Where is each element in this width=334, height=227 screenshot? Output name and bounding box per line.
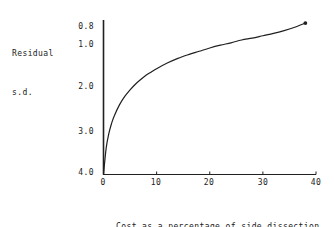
data-line-residual-sd bbox=[104, 23, 306, 174]
chart-figure: Residual s.d. 0.8 1.0 2.0 3.0 4.0 0 10 2… bbox=[0, 0, 334, 227]
data-endpoint-marker bbox=[303, 21, 307, 25]
x-axis-title-line-1: Cost as a percentage of side dissection bbox=[116, 220, 319, 227]
plot-area bbox=[0, 0, 334, 227]
x-axis-title: Cost as a percentage of side dissection … bbox=[116, 194, 319, 227]
